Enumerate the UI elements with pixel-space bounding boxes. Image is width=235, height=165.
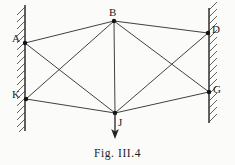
node-label-G: G bbox=[213, 84, 221, 95]
truss-members bbox=[25, 21, 209, 113]
truss-joints bbox=[23, 19, 211, 115]
truss-member-KB bbox=[26, 21, 114, 99]
node-label-A: A bbox=[12, 33, 20, 44]
truss-member-BJ bbox=[114, 21, 115, 113]
right-wall-hatching bbox=[209, 2, 217, 122]
node-label-B: B bbox=[109, 7, 117, 18]
node-label-J: J bbox=[118, 117, 122, 128]
truss-member-DJ bbox=[115, 33, 208, 113]
joint-D bbox=[206, 31, 210, 35]
truss-member-KJ bbox=[26, 99, 115, 113]
joint-G bbox=[207, 90, 211, 94]
truss-member-GJ bbox=[115, 92, 209, 113]
figure-caption: Fig. III.4 bbox=[0, 147, 235, 159]
joint-B bbox=[112, 19, 116, 23]
truss-member-AB bbox=[25, 21, 114, 43]
truss-member-AJ bbox=[25, 43, 115, 113]
joint-K bbox=[24, 97, 28, 101]
left-wall-hatching bbox=[17, 7, 25, 132]
truss-diagram-svg bbox=[0, 0, 235, 165]
joint-A bbox=[23, 41, 27, 45]
node-label-K: K bbox=[12, 89, 20, 100]
truss-figure: ABDGJK Fig. III.4 bbox=[0, 0, 235, 165]
node-label-D: D bbox=[212, 24, 220, 35]
left-wall-group bbox=[17, 5, 25, 132]
right-wall-group bbox=[209, 2, 217, 123]
